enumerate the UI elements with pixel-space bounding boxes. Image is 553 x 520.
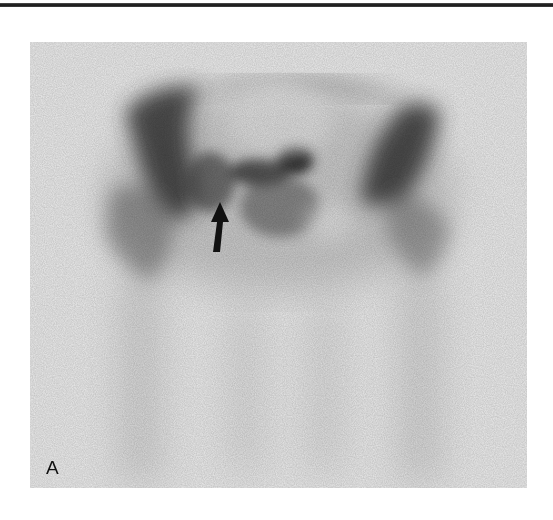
top-rule-divider [0, 3, 553, 7]
pelvis-uptake-graphic [30, 42, 527, 488]
scintigraphy-image: A [30, 42, 527, 488]
panel-label: A [46, 457, 59, 479]
